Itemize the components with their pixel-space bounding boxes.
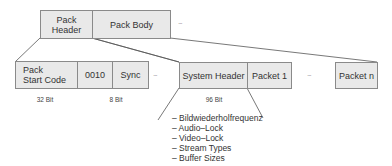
system-header-label: System Header <box>182 71 244 81</box>
sync-box: Sync <box>112 61 149 89</box>
packet-n-label: Packet n <box>339 71 374 81</box>
bit-label-96: 96 Bit <box>206 96 223 103</box>
field-video-lock: – Video–Lock <box>172 133 263 143</box>
system-header-field-list: – Bildwiederholfrequenz – Audio–Lock – V… <box>172 113 263 163</box>
sync-label: Sync <box>120 70 140 80</box>
field-stream-types: – Stream Types <box>172 143 263 153</box>
bit-label-32: 32 Bit <box>37 96 54 103</box>
packets-ellipsis: ... <box>307 69 311 78</box>
packet-n-box: Packet n <box>335 62 378 89</box>
field-bildwiederholfrequenz: – Bildwiederholfrequenz <box>172 113 263 123</box>
system-header-box: System Header <box>179 62 248 89</box>
pack-start-code-label: Pack Start Code <box>23 65 66 85</box>
packet-1-label: Packet 1 <box>252 71 287 81</box>
field-audio-lock: – Audio–Lock <box>172 123 263 133</box>
top-row-ellipsis: ... <box>178 17 182 26</box>
pack-start-code-box: Pack Start Code <box>15 61 78 89</box>
bit-label-8: 8 Bit <box>109 96 122 103</box>
pack-header-ellipsis: ... <box>153 69 157 78</box>
field-0010-box: 0010 <box>77 61 113 89</box>
field-buffer-sizes: – Buffer Sizes <box>172 153 263 163</box>
pack-header-label: Pack Header <box>52 15 82 35</box>
pack-body-box: Pack Body <box>92 10 171 39</box>
pack-header-box: Pack Header <box>40 10 93 39</box>
packet-1-box: Packet 1 <box>247 62 292 89</box>
field-0010-label: 0010 <box>85 70 105 80</box>
pack-body-label: Pack Body <box>110 20 153 30</box>
